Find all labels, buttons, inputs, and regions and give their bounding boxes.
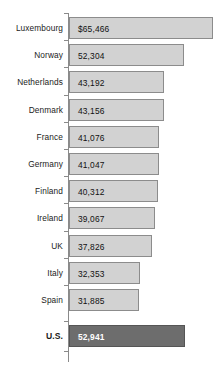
bar-value-label: 52,941 [78, 326, 105, 348]
category-label: UK [0, 235, 63, 257]
bar-value-label: 41,076 [78, 127, 105, 149]
bar-value-label: 37,826 [78, 236, 105, 258]
bar-value-label: 41,047 [78, 154, 105, 176]
bar: 43,156 [69, 99, 164, 121]
bar: 37,826 [69, 235, 152, 257]
category-label: Finland [0, 180, 63, 202]
bar-row: Luxembourg$65,466 [0, 17, 222, 39]
bar: 43,192 [69, 71, 164, 93]
bar-row: UK37,826 [0, 235, 222, 257]
bar-row: U.S.52,941 [0, 325, 222, 347]
category-label: Netherlands [0, 71, 63, 93]
axis-tick [64, 258, 69, 259]
category-label: Denmark [0, 99, 63, 121]
axis-tick [64, 149, 69, 150]
bar-value-label: 52,304 [78, 45, 105, 67]
axis-tick [64, 40, 69, 41]
bar-value-label: 32,353 [78, 263, 105, 285]
bar-row: Finland40,312 [0, 180, 222, 202]
bar-value-label: $65,466 [78, 18, 109, 40]
axis-tick [64, 13, 69, 14]
bar-chart: Luxembourg$65,466Norway52,304Netherlands… [0, 0, 222, 376]
bar: 40,312 [69, 180, 158, 202]
bar-row: Netherlands43,192 [0, 71, 222, 93]
bar-row: Spain31,885 [0, 289, 222, 311]
category-label: Norway [0, 44, 63, 66]
bar-value-label: 43,192 [78, 72, 105, 94]
bar-value-label: 39,067 [78, 208, 105, 230]
bar-row: Germany41,047 [0, 153, 222, 175]
axis-tick [64, 95, 69, 96]
axis-tick [64, 67, 69, 68]
axis-tick [64, 203, 69, 204]
axis-tick [64, 321, 69, 322]
bar: $65,466 [69, 17, 213, 39]
bar-row: Ireland39,067 [0, 207, 222, 229]
bar-row: Norway52,304 [0, 44, 222, 66]
bar-row: France41,076 [0, 126, 222, 148]
axis-tick [64, 176, 69, 177]
bar-row: Italy32,353 [0, 262, 222, 284]
category-label: U.S. [0, 325, 63, 347]
axis-tick [64, 231, 69, 232]
bar: 39,067 [69, 207, 155, 229]
bar: 31,885 [69, 289, 139, 311]
bar: 41,076 [69, 126, 159, 148]
bar: 52,304 [69, 44, 184, 66]
category-label: Luxembourg [0, 17, 63, 39]
bar-highlighted: 52,941 [69, 325, 185, 347]
axis-tick [64, 285, 69, 286]
bar-value-label: 31,885 [78, 290, 105, 312]
category-label: Spain [0, 289, 63, 311]
category-label: Italy [0, 262, 63, 284]
category-label: Ireland [0, 207, 63, 229]
axis-tick [64, 122, 69, 123]
bar-value-label: 40,312 [78, 181, 105, 203]
category-label: France [0, 126, 63, 148]
bar: 32,353 [69, 262, 140, 284]
bar-value-label: 43,156 [78, 100, 105, 122]
category-label: Germany [0, 153, 63, 175]
bar: 41,047 [69, 153, 159, 175]
bar-row: Denmark43,156 [0, 99, 222, 121]
axis-tick [64, 351, 69, 352]
